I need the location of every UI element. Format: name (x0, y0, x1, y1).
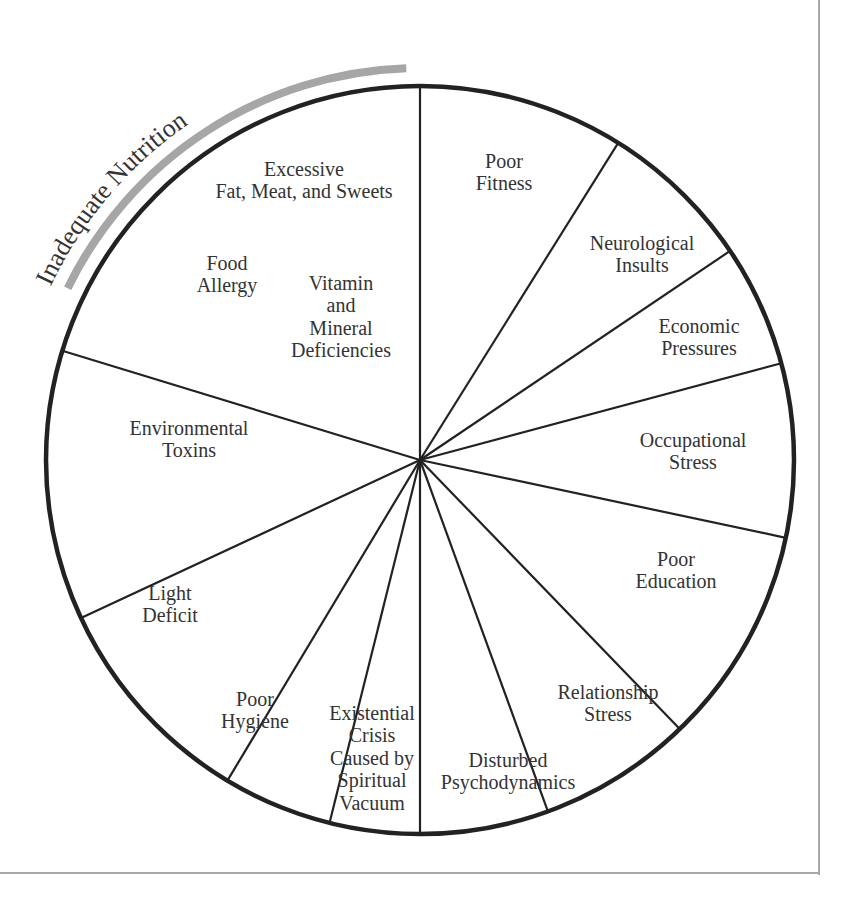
segment-label-neurological-insults: NeurologicalInsults (590, 232, 695, 276)
segment-label-poor-education: PoorEducation (635, 548, 716, 592)
wheel-diagram: Inadequate Nutrition PoorFitnessNeurolog… (0, 0, 843, 912)
segment-label-vitamin-mineral-deficiencies: VitaminandMineralDeficiencies (291, 272, 391, 361)
frame-border-bottom (0, 872, 820, 874)
segment-label-relationship-stress: RelationshipStress (557, 681, 658, 725)
segment-labels: PoorFitnessNeurologicalInsultsEconomicPr… (130, 150, 747, 814)
segment-label-disturbed-psychodynamics: DisturbedPsychodynamics (441, 749, 576, 794)
segment-label-excessive-fat-meat-sweets: ExcessiveFat, Meat, and Sweets (215, 158, 392, 202)
frame-border-right (818, 0, 820, 875)
segment-label-existential-crisis: ExistentialCrisisCaused bySpiritualVacuu… (329, 702, 415, 814)
spoke-line (62, 351, 420, 460)
segment-label-food-allergy: FoodAllergy (197, 252, 258, 297)
segment-label-economic-pressures: EconomicPressures (658, 315, 739, 359)
segment-label-environmental-toxins: EnvironmentalToxins (130, 417, 249, 461)
segment-label-poor-fitness: PoorFitness (476, 150, 533, 194)
segment-label-occupational-stress: OccupationalStress (640, 429, 747, 473)
inadequate-nutrition-label: Inadequate Nutrition (30, 105, 192, 289)
spoke-line (81, 460, 420, 618)
segment-label-light-deficit: LightDeficit (142, 582, 198, 626)
spoke-line (420, 460, 786, 538)
